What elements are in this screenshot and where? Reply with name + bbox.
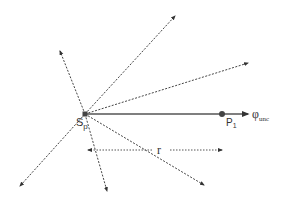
ray-right xyxy=(85,63,248,114)
distance-label-r: r xyxy=(157,143,161,157)
phi-unc-label: φunc xyxy=(252,107,269,123)
point-p1-marker xyxy=(219,111,225,117)
ray-upper-right xyxy=(85,16,175,114)
dashed-rays xyxy=(20,16,248,191)
ray-diagram: Sp P1 φunc r xyxy=(0,0,281,202)
ray-upper-left xyxy=(60,51,85,114)
point-p1-label: P1 xyxy=(226,117,237,129)
